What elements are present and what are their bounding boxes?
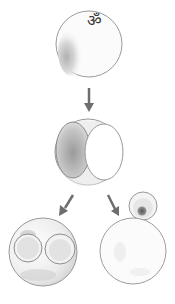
arrow-down-left-icon	[59, 195, 73, 216]
arrow-down-right-icon	[108, 195, 119, 216]
cell-division-diagram: ॐ	[0, 0, 175, 304]
cell-with-two-nuclei	[9, 218, 77, 286]
om-symbol-icon: ॐ	[87, 11, 102, 30]
arrow-down-icon	[84, 88, 94, 112]
nucleus	[138, 207, 147, 216]
separated-cells	[100, 192, 166, 284]
original-cell: ॐ	[56, 11, 122, 77]
dividing-cell	[55, 119, 123, 186]
